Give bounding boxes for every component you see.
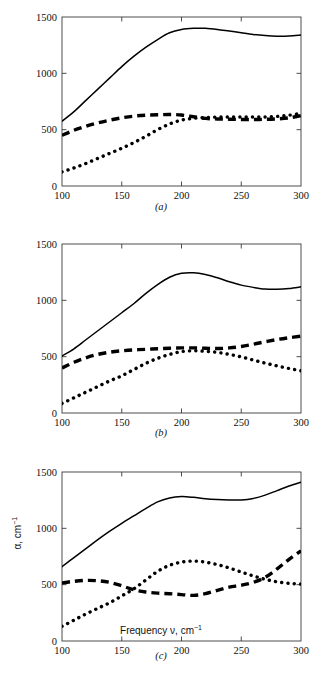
plot-canvas-b: 100150200250300050010001500 <box>0 227 322 455</box>
x-tick-label: 200 <box>174 417 190 428</box>
y-tick-label: 500 <box>41 351 57 362</box>
plot-canvas-a: 100150200250300050010001500 <box>0 0 322 226</box>
x-axis-title-text: Frequency ν, cm <box>120 625 194 636</box>
chart-panel-b: 100150200250300050010001500 α, cm−1 (b) <box>0 227 322 455</box>
y-tick-label: 0 <box>52 636 57 647</box>
series-line-dotted <box>62 351 301 404</box>
x-tick-label: 150 <box>114 190 130 201</box>
series-line-solid <box>62 273 301 356</box>
x-tick-label: 150 <box>114 417 130 428</box>
series-line-solid <box>62 482 301 567</box>
x-axis-title: Frequency ν, cm−1 <box>0 624 322 636</box>
panel-caption-c: (c) <box>0 650 322 661</box>
y-tick-label: 0 <box>52 181 57 192</box>
y-tick-label: 500 <box>41 124 57 135</box>
y-tick-label: 1000 <box>36 523 57 534</box>
x-tick-label: 250 <box>233 417 249 428</box>
chart-panel-c: 100150200250300050010001500 Frequency ν,… <box>0 455 322 678</box>
series-line-dashed <box>62 551 301 596</box>
panel-caption-b: (b) <box>0 427 322 438</box>
x-axis-title-exponent: −1 <box>194 624 202 631</box>
y-tick-label: 500 <box>41 579 57 590</box>
x-tick-label: 300 <box>293 190 309 201</box>
panel-caption-a: (a) <box>0 201 322 212</box>
y-tick-label: 1500 <box>36 467 57 478</box>
y-tick-label: 0 <box>52 408 57 419</box>
y-tick-label: 1000 <box>36 68 57 79</box>
x-tick-label: 200 <box>174 190 190 201</box>
x-tick-label: 300 <box>293 417 309 428</box>
y-tick-label: 1500 <box>36 239 57 250</box>
plot-canvas-c: 100150200250300050010001500 <box>0 455 322 678</box>
y-tick-label: 1500 <box>36 12 57 23</box>
chart-panel-a: 100150200250300050010001500 (a) <box>0 0 322 226</box>
y-tick-label: 1000 <box>36 295 57 306</box>
series-line-dotted <box>62 113 301 172</box>
series-line-solid <box>62 28 301 121</box>
x-tick-label: 250 <box>233 190 249 201</box>
figure-root: 100150200250300050010001500 (a) 10015020… <box>0 0 322 678</box>
